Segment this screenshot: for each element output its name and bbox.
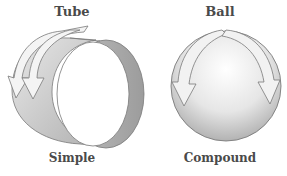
ball-figure	[171, 30, 281, 141]
curvature-diagram	[0, 0, 287, 176]
tube-figure	[8, 26, 144, 148]
ball-caption: Compound	[170, 151, 270, 165]
tube-caption: Simple	[22, 151, 122, 165]
